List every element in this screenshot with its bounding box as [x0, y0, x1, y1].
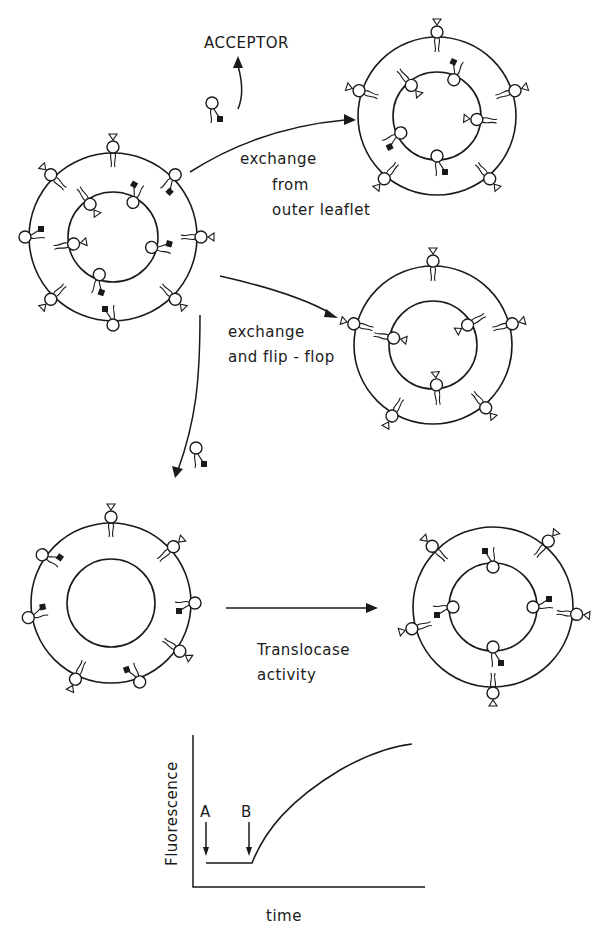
initial-labeled-vesicle — [19, 134, 214, 331]
exchange-outer-label-3: outer leaflet — [272, 201, 370, 219]
fluorescence-plot: Fluorescence time A B — [163, 735, 425, 925]
translocase-label-2: activity — [257, 666, 316, 684]
acceptor-arrow — [238, 66, 242, 109]
lipid-exchange-diagram: ACCEPTOR exchange from outer leaflet — [0, 0, 598, 943]
outer-exchange-vesicle — [345, 19, 529, 195]
plot-ylabel: Fluorescence — [163, 761, 181, 866]
marker-b-label: B — [241, 803, 252, 821]
exchange-outer-label-1: exchange — [240, 150, 317, 168]
arrow-flipflop — [220, 276, 330, 313]
marker-a-label: A — [200, 803, 211, 821]
flipflop-vesicle — [340, 248, 527, 430]
flipflop-label-2: and flip - flop — [228, 348, 335, 366]
acceptor-arrowhead — [233, 56, 243, 68]
translocase-vesicle — [398, 527, 590, 706]
acceptor-label: ACCEPTOR — [204, 34, 289, 52]
flipflop-label-1: exchange — [228, 323, 305, 341]
inserted-labeled-lipid — [190, 442, 207, 468]
outer-labeled-vesicle — [20, 504, 201, 693]
plot-axes — [193, 735, 425, 887]
fluorescence-curve — [206, 744, 412, 863]
translocase-label-1: Translocase — [256, 641, 350, 659]
free-labeled-lipid — [206, 97, 223, 123]
plot-xlabel: time — [266, 907, 302, 925]
exchange-outer-label-2: from — [272, 176, 309, 194]
